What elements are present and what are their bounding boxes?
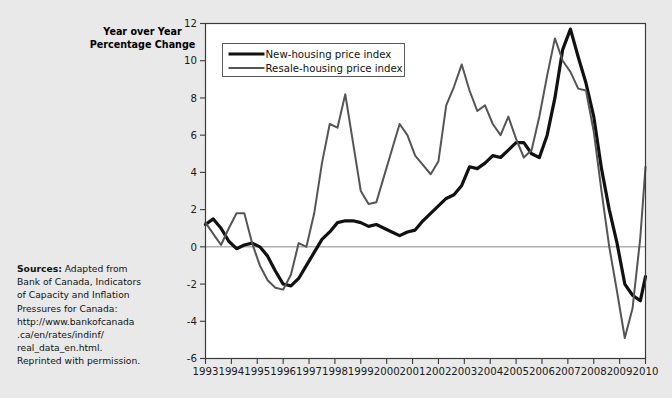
sources-line6: .ca/en/rates/indinf/: [17, 329, 104, 340]
y-tick-label: -4: [187, 316, 197, 327]
sources-label: Sources:: [17, 263, 62, 274]
y-tick-label: 2: [191, 204, 197, 215]
x-tick-label: 1993: [193, 366, 219, 377]
y-tick-label: -2: [187, 279, 197, 290]
sources-note: Sources: Adapted from Bank of Canada, In…: [17, 262, 177, 368]
sources-line8: Reprinted with permission.: [17, 355, 140, 366]
legend-label: New-housing price index: [266, 49, 392, 60]
x-tick-label: 2009: [607, 366, 633, 377]
y-axis-title: Year over Year Percentage Change: [85, 26, 200, 51]
y-tick-label: -6: [187, 353, 197, 364]
x-tick-label: 1999: [348, 366, 374, 377]
x-axis-ticks: 1993199419951996199719981999200020012002…: [193, 359, 659, 378]
x-tick-label: 2001: [400, 366, 426, 377]
sources-line1: Adapted from: [62, 263, 128, 274]
sources-line2: Bank of Canada, Indicators: [17, 276, 141, 287]
figure-container: Year over Year Percentage Change Sources…: [0, 0, 672, 398]
x-tick-label: 1995: [244, 366, 270, 377]
x-tick-label: 1994: [218, 366, 244, 377]
sources-line7: real_data_en.html.: [17, 342, 103, 353]
y-tick-label: 4: [191, 167, 197, 178]
sources-line5: http://www.bankofcanada: [17, 316, 135, 327]
sources-line4: Pressures for Canada:: [17, 303, 118, 314]
x-tick-label: 2004: [477, 366, 503, 377]
sources-line3: of Capacity and Inflation: [17, 289, 130, 300]
y-axis-title-line1: Year over Year: [103, 26, 181, 37]
x-tick-label: 2007: [555, 366, 581, 377]
x-tick-label: 2003: [451, 366, 477, 377]
x-tick-label: 2000: [374, 366, 400, 377]
x-tick-label: 1998: [322, 366, 348, 377]
y-axis-title-line2: Percentage Change: [90, 39, 196, 50]
x-tick-label: 1997: [296, 366, 322, 377]
legend-label: Resale-housing price index: [266, 63, 403, 74]
y-tick-label: 10: [184, 55, 197, 66]
x-tick-label: 2005: [503, 366, 529, 377]
y-tick-label: 0: [191, 242, 197, 253]
y-tick-label: 6: [191, 130, 197, 141]
x-tick-label: 2006: [529, 366, 555, 377]
x-tick-label: 2010: [633, 366, 659, 377]
x-tick-label: 2002: [425, 366, 451, 377]
chart-legend: New-housing price indexResale-housing pr…: [223, 44, 405, 77]
x-tick-label: 2008: [581, 366, 607, 377]
y-tick-label: 8: [191, 93, 197, 104]
y-axis-ticks: -6-4-2024681012: [184, 18, 205, 364]
x-tick-label: 1996: [270, 366, 296, 377]
